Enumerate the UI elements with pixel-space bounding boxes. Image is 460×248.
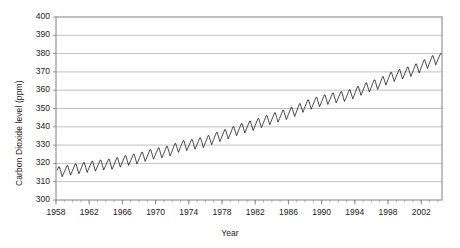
x-axis-title: Year (0, 228, 460, 238)
co2-line-chart: Carbon Dioxide level (ppm) 4003903803703… (0, 0, 460, 248)
plot-area (0, 0, 460, 248)
gridlines (56, 35, 442, 181)
